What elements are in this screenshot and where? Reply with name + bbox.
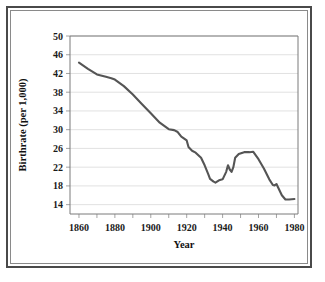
y-tick-label: 38	[53, 87, 63, 98]
x-tick-label: 1960	[249, 222, 269, 233]
axis-frame	[70, 36, 298, 214]
y-axis-title: Birthrate (per 1,000)	[17, 78, 29, 171]
birthrate-line-chart: 14182226303438424650 1860188019001920194…	[12, 12, 306, 262]
y-tick-label: 22	[53, 162, 63, 173]
gridlines	[70, 36, 298, 205]
y-tick-label: 46	[53, 49, 63, 60]
axis-spine	[70, 36, 298, 214]
y-tick-label: 30	[53, 124, 63, 135]
figure-root: 14182226303438424650 1860188019001920194…	[0, 0, 325, 282]
x-axis-ticks: 1860188019001920194019601980	[69, 214, 304, 233]
y-tick-label: 42	[53, 68, 63, 79]
y-tick-label: 18	[53, 180, 63, 191]
axis-lines	[70, 36, 298, 214]
x-axis-title: Year	[174, 239, 195, 250]
x-tick-label: 1860	[69, 222, 89, 233]
y-tick-label: 50	[53, 31, 63, 42]
birthrate-series-line	[79, 63, 294, 200]
chart-plot-area: 14182226303438424650 1860188019001920194…	[12, 12, 306, 262]
y-axis-ticks: 14182226303438424650	[53, 31, 70, 211]
x-tick-label: 1980	[284, 222, 304, 233]
x-tick-label: 1940	[213, 222, 233, 233]
y-tick-label: 26	[53, 143, 63, 154]
y-tick-label: 34	[53, 105, 63, 116]
y-tick-label: 14	[53, 199, 63, 210]
x-tick-label: 1900	[141, 222, 161, 233]
x-tick-label: 1880	[105, 222, 125, 233]
x-tick-label: 1920	[177, 222, 197, 233]
